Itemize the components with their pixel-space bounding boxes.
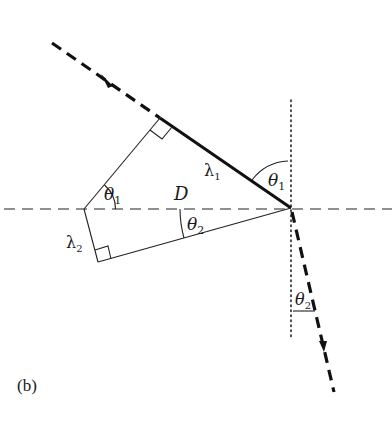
label-theta1-left: θ1 bbox=[104, 184, 121, 207]
label-theta2-mid: θ2 bbox=[187, 214, 204, 237]
label-theta2-bottom: θ2 bbox=[295, 290, 311, 311]
label-distance-D: D bbox=[173, 183, 189, 204]
label-theta1-right: θ1 bbox=[268, 170, 285, 193]
angle-arc-theta2-mid bbox=[180, 209, 184, 238]
refracted-arrow-icon bbox=[319, 341, 327, 352]
panel-label: (b) bbox=[17, 376, 37, 395]
label-lambda2: λ2 bbox=[66, 233, 83, 254]
refraction-diagram: θ1 θ1 D θ2 λ1 λ2 θ2 (b) bbox=[0, 0, 392, 428]
right-angle-marker-bottom bbox=[95, 246, 111, 259]
right-angle-marker-top bbox=[150, 127, 172, 139]
label-lambda1: λ1 bbox=[204, 161, 221, 182]
wavefront-incident bbox=[84, 118, 160, 209]
lambda2-segment bbox=[84, 209, 98, 262]
incident-arrow-icon bbox=[101, 74, 113, 88]
